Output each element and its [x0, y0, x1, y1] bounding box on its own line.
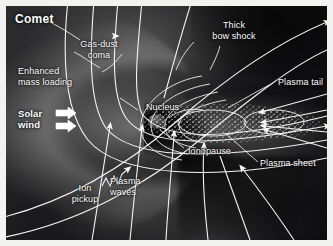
magnetic-field-lines-lower	[92, 126, 294, 240]
comet-diagram-figure: Comet Gas-dust coma Enhanced mass loadin…	[0, 0, 333, 246]
magnetic-field-lines-upper	[65, 6, 327, 172]
diagram-image-plate: Comet Gas-dust coma Enhanced mass loadin…	[6, 6, 327, 240]
solar-wind-arrow-icon	[56, 107, 76, 132]
plasma-wave-squiggle-icon	[102, 169, 128, 186]
field-line-overlay	[6, 6, 327, 240]
